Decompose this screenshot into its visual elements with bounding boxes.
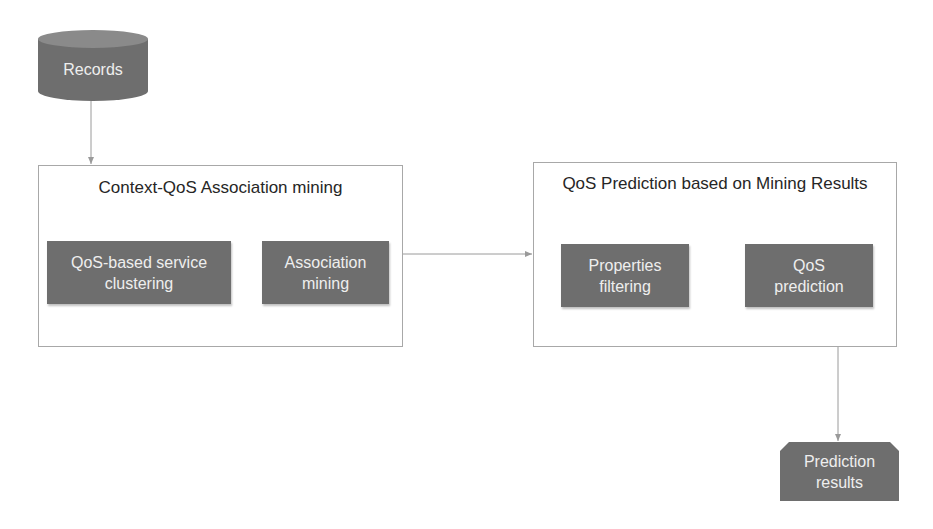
- step-label-line1: QoS-based service: [71, 252, 207, 273]
- qos-based-service-clustering-node: QoS-based service clustering: [47, 241, 231, 304]
- prediction-box-title: QoS Prediction based on Mining Results: [534, 174, 896, 194]
- records-label: Records: [63, 59, 123, 80]
- results-label-line2: results: [816, 472, 863, 493]
- context-box-title: Context-QoS Association mining: [39, 178, 402, 198]
- step-label-line2: prediction: [774, 276, 843, 297]
- step-label-line2: filtering: [589, 276, 662, 297]
- association-mining-node: Association mining: [262, 241, 389, 304]
- step-label-line2: mining: [285, 273, 367, 294]
- prediction-results-node: Prediction results: [780, 442, 899, 501]
- properties-filtering-node: Properties filtering: [561, 244, 689, 307]
- step-label-line1: Association: [285, 252, 367, 273]
- step-label-line1: Properties: [589, 255, 662, 276]
- step-label-line2: clustering: [71, 273, 207, 294]
- qos-prediction-node: QoS prediction: [745, 244, 873, 307]
- step-label-line1: QoS: [774, 255, 843, 276]
- results-label-line1: Prediction: [804, 451, 875, 472]
- records-database-node: Records: [37, 29, 149, 102]
